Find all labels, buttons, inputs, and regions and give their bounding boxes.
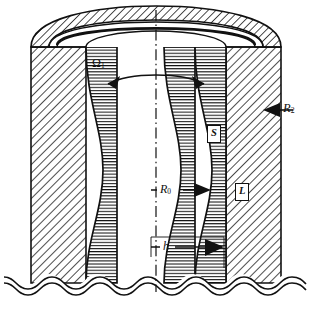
reference-radius-label: R0 (160, 183, 171, 196)
solid-region-label: S (207, 125, 221, 143)
figure-root: Ω1 R2 R0 h S L (0, 0, 313, 313)
left-outer-wall (31, 47, 86, 283)
right-outer-wall (226, 47, 281, 283)
rotation-label: Ω1 (92, 57, 105, 70)
outer-radius-label: R2 (283, 102, 295, 115)
liquid-region-label: L (235, 183, 249, 201)
thickness-label: h (163, 240, 169, 252)
vessel-cross-section-diagram (0, 0, 313, 313)
